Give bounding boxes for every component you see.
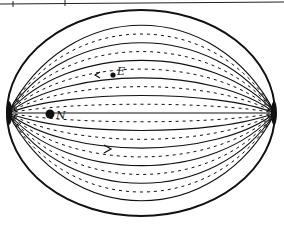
field-line-diagram	[0, 0, 284, 225]
right-pole	[271, 101, 277, 125]
point-n-marker	[46, 110, 55, 119]
dotted-field-line	[8, 69, 275, 113]
dotted-field-line	[8, 113, 275, 192]
dotted-field-line	[8, 34, 275, 113]
left-pole	[6, 101, 12, 125]
top-edge-line	[0, 2, 284, 4]
point-e-marker	[110, 72, 115, 77]
dotted-field-line	[8, 113, 275, 157]
label-n: N	[56, 110, 66, 121]
arrow-left-icon	[95, 72, 100, 78]
label-e: E	[117, 66, 125, 77]
dotted-field-line	[8, 87, 275, 113]
